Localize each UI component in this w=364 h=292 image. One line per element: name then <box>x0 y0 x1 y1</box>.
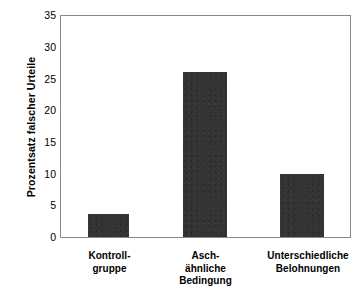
x-label-asch-aehnliche-bedingung: Asch- ähnliche Bedingung <box>159 250 252 288</box>
x-label-line: Kontroll- <box>62 250 157 263</box>
y-tick-label-5: 5 <box>10 200 56 211</box>
y-tick-label-10: 10 <box>10 169 56 180</box>
bar-chart: Prozentsatz falscher Urteile 35 30 25 20… <box>0 0 364 292</box>
y-tick-label-0: 0 <box>10 232 56 243</box>
x-label-line: Bedingung <box>159 275 252 288</box>
y-tick-label-20: 20 <box>10 105 56 116</box>
x-label-line: gruppe <box>62 263 157 276</box>
bar-kontrollgruppe <box>88 214 129 237</box>
x-label-line: Belohnungen <box>253 263 363 276</box>
y-tick-label-30: 30 <box>10 42 56 53</box>
bar-asch-aehnliche-bedingung <box>183 72 227 237</box>
y-axis-title: Prozentsatz falscher Urteile <box>23 27 39 227</box>
x-label-line: Asch- <box>159 250 252 263</box>
y-tick-label-25: 25 <box>10 74 56 85</box>
y-tick-label-35: 35 <box>10 10 56 21</box>
x-label-line: Unterschiedliche <box>253 250 363 263</box>
x-label-unterschiedliche-belohnungen: Unterschiedliche Belohnungen <box>253 250 363 275</box>
bar-unterschiedliche-belohnungen <box>280 174 324 237</box>
x-label-line: ähnliche <box>159 263 252 276</box>
y-tick-label-15: 15 <box>10 137 56 148</box>
plot-area <box>60 15 351 238</box>
x-label-kontrollgruppe: Kontroll- gruppe <box>62 250 157 275</box>
